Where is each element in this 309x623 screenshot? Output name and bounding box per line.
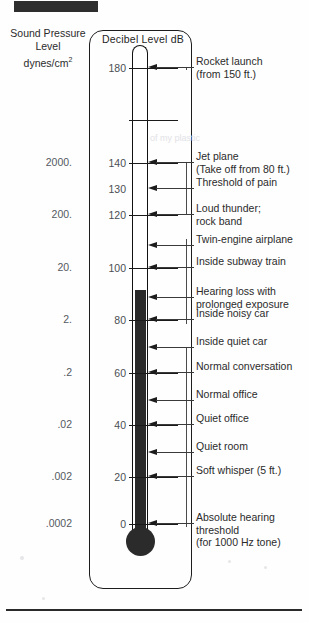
- caption-line: Quiet room: [196, 440, 248, 453]
- db-tick-mark: [129, 163, 178, 164]
- arrow-shaft: [156, 245, 194, 246]
- caption-line: Loud thunder;: [196, 202, 261, 215]
- caption-normal-office: Normal office: [196, 388, 258, 401]
- db-tick-label: 140: [95, 156, 126, 170]
- caption-line: Normal conversation: [196, 360, 292, 373]
- pressure-value: 20.: [8, 261, 72, 273]
- caption-line: (from 150 ft.): [196, 68, 263, 81]
- pressure-value: .2: [8, 366, 72, 378]
- db-tick-label: 0: [95, 517, 126, 531]
- pointer-arrow: [148, 446, 195, 459]
- caption-rocket-launch: Rocket launch(from 150 ft.): [196, 55, 263, 80]
- paper-speck: [228, 560, 231, 563]
- caption-threshold-of-pain: Threshold of pain: [196, 176, 277, 189]
- left-axis-heading-line1: Sound Pressure: [6, 27, 90, 40]
- caption-line: Twin-engine airplane: [196, 233, 293, 246]
- pressure-value: 2.: [8, 313, 72, 325]
- caption-line: Jet plane: [196, 150, 290, 163]
- caption-line: Inside subway train: [196, 255, 286, 268]
- figure-page: Sound Pressure Level dynes/cm2 2000.200.…: [0, 0, 309, 623]
- pressure-value: 200.: [8, 208, 72, 220]
- db-tick-mark: [129, 268, 178, 269]
- pressure-value: .0002: [8, 517, 72, 529]
- left-axis-units: dynes/cm: [24, 57, 69, 69]
- db-tick-label: 120: [95, 208, 126, 222]
- arrow-shaft: [156, 188, 194, 189]
- paper-speck: [42, 597, 45, 600]
- left-axis-heading-line3: dynes/cm2: [6, 53, 90, 70]
- db-tick-mark: [129, 524, 178, 525]
- pointer-arrow: [148, 291, 195, 304]
- caption-soft-whisper: Soft whisper (5 ft.): [196, 464, 281, 477]
- caption-line: Normal office: [196, 388, 258, 401]
- caption-line: Threshold of pain: [196, 176, 277, 189]
- caption-quiet-room: Quiet room: [196, 440, 248, 453]
- caption-line: threshold: [196, 524, 281, 537]
- pressure-value: .002: [8, 470, 72, 482]
- caption-quiet-office: Quiet office: [196, 412, 249, 425]
- db-tick-label: 60: [95, 366, 126, 380]
- pressure-value: 2000.: [8, 156, 72, 168]
- thermometer-mercury-fill: [135, 290, 146, 540]
- caption-inside-subway-train: Inside subway train: [196, 255, 286, 268]
- left-axis-units-exponent: 2: [69, 56, 73, 63]
- caption-line: Quiet office: [196, 412, 249, 425]
- arrow-shaft: [156, 297, 194, 298]
- pointer-arrow: [148, 341, 195, 354]
- left-axis-heading: Sound Pressure Level dynes/cm2: [6, 27, 90, 70]
- tick-160-unlabeled: [95, 113, 285, 127]
- pointer-arrow: [148, 239, 195, 252]
- caption-absolute-hearing-threshold: Absolute hearingthreshold(for 1000 Hz to…: [196, 511, 281, 549]
- caption-inside-noisy-car: Inside noisy car: [196, 307, 269, 320]
- caption-jet-plane: Jet plane(Take off from 80 ft.): [196, 150, 290, 175]
- db-tick-label: 80: [95, 313, 126, 327]
- paper-speck: [264, 566, 267, 569]
- arrow-shaft: [156, 400, 194, 401]
- paper-speck: [20, 556, 24, 560]
- pointer-arrow: [148, 394, 195, 407]
- redaction-bar: [14, 1, 98, 12]
- arrow-shaft: [156, 347, 194, 348]
- db-tick-label: 40: [95, 418, 126, 432]
- db-tick-label: 20: [95, 470, 126, 484]
- bottom-divider-rule: [6, 609, 302, 611]
- caption-inside-quiet-car: Inside quiet car: [196, 335, 267, 348]
- caption-twin-engine-airplane: Twin-engine airplane: [196, 233, 293, 246]
- caption-line: (Take off from 80 ft.): [196, 163, 290, 176]
- db-tick-mark: [129, 120, 178, 121]
- db-tick-mark: [129, 215, 178, 216]
- caption-line: Inside quiet car: [196, 335, 267, 348]
- db-tick-mark: [129, 373, 178, 374]
- db-tick-label: 130: [95, 182, 126, 196]
- pointer-arrow: [148, 182, 195, 195]
- arrow-shaft: [156, 452, 194, 453]
- caption-line: Absolute hearing: [196, 511, 281, 524]
- caption-line: Soft whisper (5 ft.): [196, 464, 281, 477]
- db-tick-mark: [129, 477, 178, 478]
- pressure-value: .02: [8, 418, 72, 430]
- db-tick-mark: [129, 68, 178, 69]
- caption-line: Rocket launch: [196, 55, 263, 68]
- left-axis-heading-line2: Level: [6, 40, 90, 53]
- db-tick-mark: [129, 425, 178, 426]
- caption-line: rock band: [196, 215, 261, 228]
- thermometer-bulb: [126, 527, 155, 556]
- db-tick-label: 100: [95, 261, 126, 275]
- caption-line: (for 1000 Hz tone): [196, 536, 281, 549]
- caption-normal-conversation: Normal conversation: [196, 360, 292, 373]
- ghost-artifact-text: of my plastic: [150, 133, 200, 143]
- caption-line: Hearing loss with: [196, 285, 289, 298]
- db-tick-label: 180: [95, 61, 126, 75]
- db-tick-mark: [129, 320, 178, 321]
- scale-title: Decibel Level dB: [95, 33, 191, 45]
- caption-line: Inside noisy car: [196, 307, 269, 320]
- caption-loud-thunder: Loud thunder;rock band: [196, 202, 261, 227]
